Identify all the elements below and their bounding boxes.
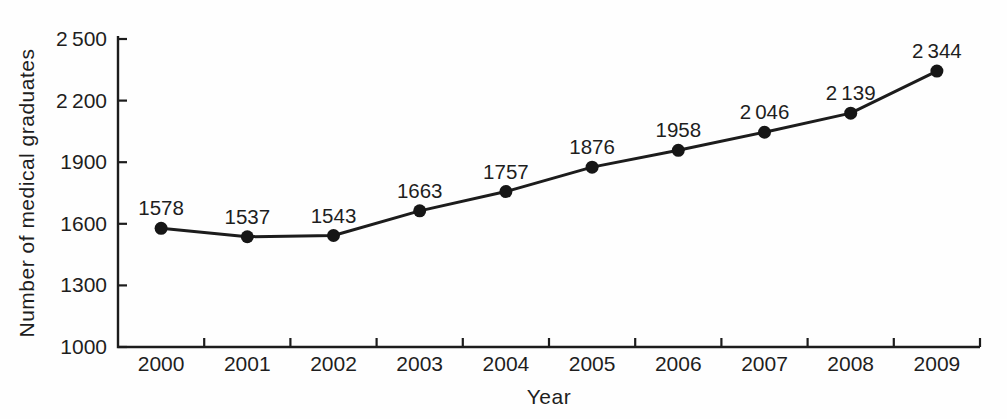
data-point-label: 1757 [483,160,529,183]
x-tick-label: 2002 [310,352,357,375]
data-point [844,107,857,120]
data-point-label: 1578 [138,196,184,219]
chart-canvas: 10001300160019002 2002 50020002001200220… [0,0,1007,419]
x-tick-label: 2003 [396,352,443,375]
y-tick-label: 2 500 [56,27,107,50]
x-axis-title: Year [118,385,980,409]
y-axis-title: Number of medical graduates [15,49,39,338]
data-point-label: 2 344 [912,39,962,62]
x-tick-label: 2009 [914,352,961,375]
data-point [413,204,426,217]
data-point [672,144,685,157]
x-tick-label: 2000 [138,352,185,375]
x-tick-label: 2008 [827,352,874,375]
data-point [499,185,512,198]
data-point [155,222,168,235]
y-tick-label: 2 200 [56,89,107,112]
x-tick-label: 2001 [224,352,271,375]
data-point [586,161,599,174]
data-line [161,71,937,237]
data-point [758,126,771,139]
data-point-label: 1543 [311,204,357,227]
data-point-label: 2 046 [740,100,790,123]
x-tick-label: 2006 [655,352,702,375]
y-tick-label: 1600 [60,212,107,235]
data-point [327,229,340,242]
data-point-label: 1958 [655,118,701,141]
y-tick-label: 1000 [60,335,107,358]
data-point [241,230,254,243]
y-tick-label: 1300 [60,273,107,296]
data-point-label: 1876 [569,135,615,158]
data-point [930,65,943,78]
medical-graduates-line-chart: 10001300160019002 2002 50020002001200220… [0,0,1007,419]
data-point-label: 1537 [224,205,270,228]
y-tick-label: 1900 [60,150,107,173]
data-point-label: 2 139 [826,81,876,104]
data-point-label: 1663 [397,179,443,202]
x-tick-label: 2004 [483,352,530,375]
x-tick-label: 2005 [569,352,616,375]
x-tick-label: 2007 [741,352,788,375]
